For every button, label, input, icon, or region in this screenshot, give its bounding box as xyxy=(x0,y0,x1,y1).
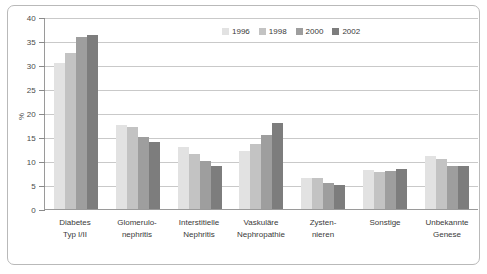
bar-group xyxy=(178,18,222,209)
bar xyxy=(447,166,458,209)
bar xyxy=(116,125,127,209)
category-label-line: nephritis xyxy=(106,229,168,241)
bar xyxy=(272,123,283,209)
category-label-line: Zysten- xyxy=(292,217,354,229)
category-axis-labels: DiabetesTyp I/IIGlomerulo-nephritisInter… xyxy=(44,212,478,256)
bar xyxy=(250,144,261,209)
category-label-line: Typ I/II xyxy=(44,229,106,241)
bar xyxy=(127,127,138,209)
category-label: DiabetesTyp I/II xyxy=(44,212,106,256)
bar xyxy=(301,178,312,209)
y-axis-tick-label: 30 xyxy=(27,62,36,71)
bar xyxy=(323,183,334,209)
bar xyxy=(138,137,149,209)
category-label-line: Interstitielle xyxy=(168,217,230,229)
category-label-line: Diabetes xyxy=(44,217,106,229)
bar xyxy=(87,35,98,209)
category-label-line: Unbekannte xyxy=(416,217,478,229)
category-label-line: Sonstige xyxy=(354,217,416,229)
category-label-line: Nephritis xyxy=(168,229,230,241)
bar-group xyxy=(239,18,283,209)
y-axis-tick xyxy=(39,210,45,211)
category-label-line: Nephropathie xyxy=(230,229,292,241)
bar xyxy=(334,185,345,209)
bar xyxy=(436,159,447,209)
bar xyxy=(54,63,65,209)
category-label: Zysten-nieren xyxy=(292,212,354,256)
y-axis-tick-label: 10 xyxy=(27,158,36,167)
bar-group xyxy=(425,18,469,209)
bar xyxy=(65,53,76,209)
bar-groups xyxy=(45,18,478,209)
bar-group xyxy=(301,18,345,209)
y-axis-tick-label: 25 xyxy=(27,86,36,95)
category-label-line: nieren xyxy=(292,229,354,241)
plot-area: 0510152025303540 xyxy=(44,18,478,210)
bar-group xyxy=(116,18,160,209)
category-label-line: Glomerulo- xyxy=(106,217,168,229)
bar xyxy=(76,37,87,209)
category-label: Sonstige xyxy=(354,212,416,256)
y-axis-tick-label: 15 xyxy=(27,134,36,143)
bar xyxy=(200,161,211,209)
bar xyxy=(178,147,189,209)
bar xyxy=(149,142,160,209)
bar-group xyxy=(363,18,407,209)
bar xyxy=(312,178,323,209)
bar xyxy=(374,172,385,209)
category-label-line: Genese xyxy=(416,229,478,241)
chart-figure: % 1996199820002002 0510152025303540 Diab… xyxy=(0,0,487,274)
y-axis-tick-label: 40 xyxy=(27,14,36,23)
bar-group xyxy=(54,18,98,209)
bar xyxy=(396,169,407,209)
bar xyxy=(261,135,272,209)
bar xyxy=(211,166,222,209)
bar xyxy=(363,170,374,209)
y-axis-tick-label: 5 xyxy=(31,182,36,191)
y-axis-tick-label: 35 xyxy=(27,38,36,47)
bar xyxy=(189,154,200,209)
category-label: VaskuläreNephropathie xyxy=(230,212,292,256)
category-label-line: Vaskuläre xyxy=(230,217,292,229)
category-label: UnbekannteGenese xyxy=(416,212,478,256)
bar xyxy=(425,156,436,209)
bar xyxy=(239,151,250,209)
bar xyxy=(385,171,396,209)
y-axis-title: % xyxy=(17,113,26,120)
bar xyxy=(458,166,469,209)
category-label: Glomerulo-nephritis xyxy=(106,212,168,256)
y-axis-tick-label: 20 xyxy=(27,110,36,119)
y-axis-tick-label: 0 xyxy=(31,206,36,215)
category-label: InterstitielleNephritis xyxy=(168,212,230,256)
